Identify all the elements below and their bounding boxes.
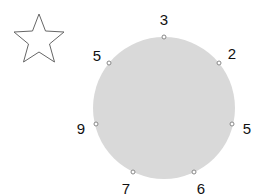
point-marker	[94, 122, 98, 126]
point-label: 6	[197, 181, 205, 196]
point-label: 7	[122, 181, 130, 196]
diagram-canvas	[0, 0, 260, 195]
star-icon	[14, 14, 64, 62]
point-label: 2	[228, 46, 236, 61]
point-marker	[131, 170, 135, 174]
point-label: 5	[243, 121, 251, 136]
point-label: 3	[160, 12, 168, 27]
point-marker	[230, 122, 234, 126]
point-label: 9	[77, 121, 85, 136]
point-marker	[107, 61, 111, 65]
point-label: 5	[93, 48, 101, 63]
point-marker	[217, 61, 221, 65]
point-marker	[192, 170, 196, 174]
big-circle	[93, 37, 235, 179]
point-marker	[162, 35, 166, 39]
